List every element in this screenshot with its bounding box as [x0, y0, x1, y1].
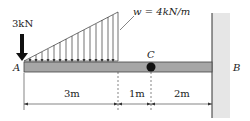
distributed-load-label: w = 4kN/m: [133, 7, 190, 17]
distributed-load-arrowheads: [29, 59, 115, 62]
hinge-C: [147, 63, 156, 72]
distributed-load-arrows: [30, 15, 113, 61]
point-C-label: C: [147, 50, 155, 60]
dimension-3m: 3m: [64, 89, 80, 99]
point-B-label: B: [233, 63, 240, 73]
dimension-2m: 2m: [174, 89, 190, 99]
point-load-label: 3kN: [12, 19, 33, 29]
point-load-arrow-shaft: [20, 34, 24, 54]
dimension-1m: 1m: [129, 89, 145, 99]
fixed-wall-B: [212, 13, 230, 118]
beam: [24, 62, 212, 72]
distributed-load-triangle: [24, 12, 118, 61]
point-A-label: A: [13, 63, 20, 73]
beam-diagram: [0, 0, 250, 121]
load-label-leader: [120, 16, 134, 30]
